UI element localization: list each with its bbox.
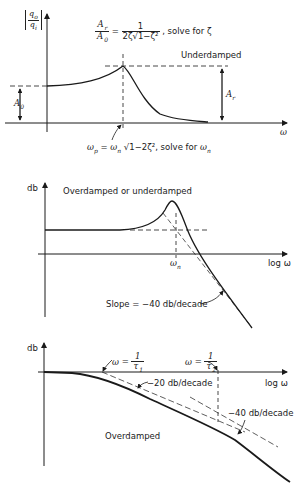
ar-label: Ar (226, 90, 235, 101)
tau1-corner-label: ω = 1τ1 (112, 352, 144, 372)
minus40-slope-label: −40 db/decade (228, 409, 293, 418)
overdamped-label: Overdamped (105, 432, 160, 441)
magnitude-curve (47, 66, 208, 122)
middle-y-axis-label: db (27, 184, 38, 193)
top-x-axis-label: ω (280, 128, 287, 137)
middle-x-axis-label: log ω (268, 259, 291, 268)
ratio-formula: ArA0 = 12ζ√1−ζ² , solve for ζ (95, 20, 212, 42)
peak-frequency-formula: ωp = ωn √1−2ζ², solve for ωn (87, 143, 211, 154)
overdamped-or-underdamped-label: Overdamped or underdamped (63, 187, 192, 196)
underdamped-label: Underdamped (181, 51, 241, 60)
wn-label: ωn (170, 259, 181, 270)
bottom-x-axis-label: log ω (265, 379, 288, 388)
minus20-slope-label: −20 db/decade (147, 379, 212, 388)
tau1-pointer-arrow (103, 360, 112, 371)
overdamped-curve (44, 372, 290, 482)
a0-label: A0 (14, 99, 24, 110)
diagram-canvas (0, 0, 302, 495)
tau2-corner-label: ω = 1τ2 (185, 352, 217, 372)
top-y-axis-label: |q_o / q_i|qoqi (25, 10, 42, 30)
bottom-y-axis-label: db (27, 344, 38, 353)
peak-pointer-arrow (112, 125, 121, 140)
slope-label: Slope = −40 db/decade (106, 300, 208, 309)
